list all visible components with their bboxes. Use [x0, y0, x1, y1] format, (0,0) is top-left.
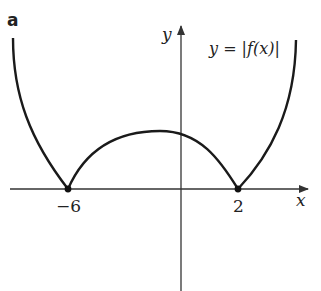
curve-right-branch	[238, 40, 296, 189]
x-axis-label: x	[296, 190, 306, 210]
tick-label-2: 2	[233, 196, 244, 216]
y-axis-label: y	[161, 24, 172, 44]
curve-middle-arch	[68, 131, 238, 189]
curve-left-branch	[13, 38, 68, 189]
zero-point-2	[235, 186, 242, 193]
curve-label: y = |f(x)|	[208, 39, 280, 58]
tick-label-neg6: −6	[56, 196, 81, 216]
zero-point-neg6	[65, 186, 72, 193]
graph-canvas: −6 2 x y y = |f(x)|	[0, 0, 321, 291]
